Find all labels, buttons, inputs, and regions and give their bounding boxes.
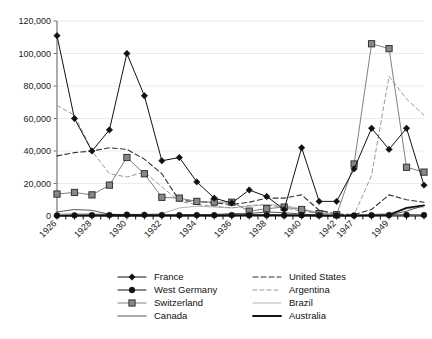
data-point: [194, 212, 200, 218]
data-point: [176, 212, 182, 218]
x-axis-tick-label: 1947: [334, 218, 355, 239]
data-point: [386, 212, 392, 218]
legend-item-argentina[interactable]: Argentina: [253, 284, 330, 295]
legend-label: France: [154, 271, 184, 282]
x-axis-tick-label: 1940: [282, 218, 303, 239]
data-point: [159, 212, 165, 218]
data-point: [299, 206, 305, 212]
y-axis-tick-label: 60,000: [23, 114, 51, 124]
data-point: [124, 212, 130, 218]
x-axis-tick-label: 1936: [212, 218, 233, 239]
data-point: [368, 41, 374, 47]
data-point: [421, 212, 427, 218]
data-point: [421, 182, 427, 188]
data-point: [159, 158, 165, 164]
legend-label: Brazil: [289, 297, 313, 308]
y-axis-tick-label: 80,000: [23, 81, 51, 91]
data-point: [334, 213, 340, 219]
series-line: [57, 76, 424, 215]
legend-item-switzerland[interactable]: Switzerland: [118, 297, 203, 308]
x-axis-tick-labels: 1926192819301932193419361938194019421947…: [37, 218, 390, 239]
x-axis-tick-label: 1949: [369, 218, 390, 239]
y-axis-tick-labels: 020,00040,00060,00080,000100,000120,000: [18, 16, 51, 221]
x-axis-tick-label: 1926: [37, 218, 58, 239]
x-axis-tick-label: 1938: [247, 218, 268, 239]
data-point: [141, 93, 147, 99]
y-axis-tick-label: 20,000: [23, 179, 51, 189]
data-point: [124, 154, 130, 160]
data-point: [89, 192, 95, 198]
data-point: [176, 154, 182, 160]
legend-swatch-marker: [129, 300, 135, 306]
data-point: [72, 212, 78, 218]
data-point: [369, 212, 375, 218]
data-point: [194, 198, 200, 204]
data-point: [386, 46, 392, 52]
plot-area: [54, 32, 427, 218]
x-axis-tick-label: 1932: [142, 218, 163, 239]
data-point: [351, 213, 357, 219]
chart-container: 020,00040,00060,00080,000100,000120,000 …: [0, 0, 432, 339]
data-point: [246, 212, 252, 218]
x-axis-tick-label: 1934: [177, 218, 198, 239]
x-axis-tick-label: 1942: [317, 218, 338, 239]
legend-label: Argentina: [289, 284, 330, 295]
legend-item-brazil[interactable]: Brazil: [253, 297, 313, 308]
data-point: [281, 212, 287, 218]
data-point: [141, 171, 147, 177]
data-point: [403, 164, 409, 170]
legend-item-united-states[interactable]: United States: [253, 271, 346, 282]
x-axis-tick-label: 1928: [72, 218, 93, 239]
legend-label: Australia: [289, 310, 327, 321]
data-point: [211, 212, 217, 218]
legend-item-canada[interactable]: Canada: [118, 310, 188, 321]
data-point: [71, 189, 77, 195]
data-point: [229, 212, 235, 218]
legend-item-west-germany[interactable]: West Germany: [118, 284, 217, 295]
x-axis-tick-label: 1930: [107, 218, 128, 239]
y-axis-tick-label: 40,000: [23, 146, 51, 156]
axes: [54, 21, 425, 220]
data-point: [333, 198, 339, 204]
legend-label: United States: [289, 271, 346, 282]
data-point: [316, 212, 322, 218]
legend-item-australia[interactable]: Australia: [253, 310, 327, 321]
legend-swatch-marker: [129, 287, 135, 293]
data-point: [176, 195, 182, 201]
data-point: [54, 191, 60, 197]
data-point: [89, 212, 95, 218]
data-point: [264, 206, 270, 212]
legend-swatch-marker: [129, 274, 135, 280]
data-point: [107, 212, 113, 218]
data-point: [404, 212, 410, 218]
data-point: [106, 182, 112, 188]
data-point: [299, 212, 305, 218]
data-point: [54, 213, 60, 219]
y-axis-tick-label: 120,000: [18, 16, 51, 26]
legend-item-france[interactable]: France: [118, 271, 184, 282]
y-axis-tick-label: 100,000: [18, 49, 51, 59]
data-point: [159, 194, 165, 200]
data-point: [71, 115, 77, 121]
data-point: [54, 32, 60, 38]
data-point: [124, 50, 130, 56]
data-point: [298, 145, 304, 151]
legend-label: Switzerland: [154, 297, 203, 308]
legend-label: Canada: [154, 310, 188, 321]
chart-legend: FranceWest GermanySwitzerlandCanadaUnite…: [118, 271, 346, 321]
data-point: [421, 169, 427, 175]
legend-label: West Germany: [154, 284, 217, 295]
data-point: [264, 212, 270, 218]
data-point: [316, 198, 322, 204]
line-chart: 020,00040,00060,00080,000100,000120,000 …: [0, 0, 432, 339]
series-argentina: [57, 76, 424, 215]
data-point: [141, 212, 147, 218]
